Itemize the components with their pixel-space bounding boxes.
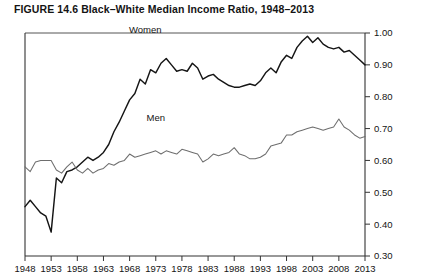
x-tick-label: 1953 (41, 263, 62, 274)
x-tick-label: 1968 (119, 263, 140, 274)
x-tick-label: 1988 (224, 263, 245, 274)
y-tick-label: 1.00 (374, 27, 393, 38)
x-tick-label: 1998 (276, 263, 297, 274)
series-label-women: Women (129, 24, 162, 35)
figure-title: FIGURE 14.6 Black–White Median Income Ra… (14, 3, 314, 15)
series-label-men: Men (147, 112, 165, 123)
y-tick-label: 0.90 (374, 59, 393, 70)
series-line-women (25, 36, 365, 232)
x-tick-label: 1993 (250, 263, 271, 274)
x-tick-label: 2008 (328, 263, 349, 274)
x-axis-tick-labels: 1948195319581963196819731978198319881993… (14, 263, 375, 274)
y-tick-label: 0.50 (374, 187, 393, 198)
y-tick-label: 0.70 (374, 123, 393, 134)
x-tick-label: 2003 (302, 263, 323, 274)
x-axis-ticks (25, 256, 365, 261)
y-tick-label: 0.60 (374, 155, 393, 166)
series-inline-labels: Women Men (129, 24, 165, 123)
x-tick-label: 1963 (93, 263, 114, 274)
x-tick-label: 1978 (171, 263, 192, 274)
x-tick-label: 1973 (145, 263, 166, 274)
y-tick-label: 0.30 (374, 250, 393, 261)
figure-container: FIGURE 14.6 Black–White Median Income Ra… (0, 0, 422, 280)
income-ratio-line-chart: Women Men 1.000.900.800.700.600.500.400.… (0, 20, 422, 280)
y-axis-ticks (365, 33, 370, 256)
x-tick-label: 1948 (14, 263, 35, 274)
x-tick-label: 1958 (67, 263, 88, 274)
y-tick-label: 0.80 (374, 91, 393, 102)
series-lines (25, 36, 365, 232)
chart-plot-area: Women Men 1.000.900.800.700.600.500.400.… (0, 20, 422, 280)
x-tick-label: 2013 (354, 263, 375, 274)
x-tick-label: 1983 (198, 263, 219, 274)
y-tick-label: 0.40 (374, 219, 393, 230)
y-axis-tick-labels: 1.000.900.800.700.600.500.400.30 (374, 27, 393, 261)
series-line-men (25, 119, 365, 173)
